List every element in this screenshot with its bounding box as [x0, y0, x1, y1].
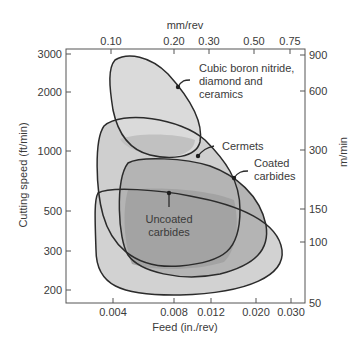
x2-tick-0.10: 0.10 — [100, 35, 121, 47]
label-uncoated-line1: Uncoated — [145, 213, 192, 225]
label-coated-line2: carbides — [254, 170, 296, 182]
y-tick-1000: 1000 — [38, 145, 62, 157]
y2-tick-50: 50 — [309, 297, 321, 309]
right-axis — [300, 55, 305, 242]
y-tick-3000: 3000 — [38, 48, 62, 60]
x2-axis-title: mm/rev — [167, 19, 204, 31]
y-tick-500: 500 — [44, 205, 62, 217]
dot-coated — [232, 176, 236, 180]
top-axis — [111, 49, 290, 54]
feed-speed-chart: Cubic boron nitride, diamond and ceramic… — [0, 0, 362, 349]
dot-cbn — [176, 85, 180, 89]
x-tick-0.030: 0.030 — [277, 306, 305, 318]
leader-coated — [234, 171, 248, 178]
x2-tick-0.75: 0.75 — [279, 35, 300, 47]
label-cermets: Cermets — [222, 140, 264, 152]
y2-tick-150: 150 — [309, 203, 327, 215]
dot-uncoated — [167, 191, 171, 195]
y2-tick-600: 600 — [309, 85, 327, 97]
x-tick-0.012: 0.012 — [197, 306, 225, 318]
y-tick-300: 300 — [44, 245, 62, 257]
x-tick-0.008: 0.008 — [160, 306, 188, 318]
x2-tick-0.50: 0.50 — [243, 35, 264, 47]
x2-tick-0.30: 0.30 — [198, 35, 219, 47]
y2-tick-300: 300 — [309, 144, 327, 156]
x-axis-title: Feed (in./rev) — [152, 321, 217, 333]
y-tick-200: 200 — [44, 284, 62, 296]
x-tick-0.004: 0.004 — [99, 306, 127, 318]
label-cbn-line1: Cubic boron nitride, — [199, 62, 294, 74]
label-cbn-line3: ceramics — [199, 88, 244, 100]
label-cbn-line2: diamond and — [199, 75, 263, 87]
y2-axis-title: m/min — [337, 137, 349, 167]
bottom-axis — [113, 298, 291, 303]
y-tick-2000: 2000 — [38, 86, 62, 98]
left-axis — [66, 54, 71, 290]
x2-tick-0.20: 0.20 — [163, 35, 184, 47]
label-coated-line1: Coated — [254, 157, 289, 169]
x-tick-0.020: 0.020 — [242, 306, 270, 318]
y-axis-title: Cutting speed (ft/min) — [17, 122, 29, 227]
dot-cermets — [196, 154, 200, 158]
y2-tick-100: 100 — [309, 236, 327, 248]
label-uncoated-line2: carbides — [148, 226, 190, 238]
y2-tick-900: 900 — [309, 49, 327, 61]
